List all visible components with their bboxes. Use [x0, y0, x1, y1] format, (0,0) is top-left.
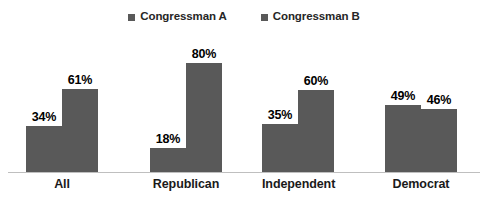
bar-value-label: 34% [32, 111, 56, 124]
category-label: Republican [150, 178, 222, 191]
bar-column[interactable]: 80% [186, 30, 222, 172]
axis-baseline [8, 172, 480, 173]
bar-column[interactable]: 61% [62, 30, 98, 172]
category-label: All [26, 178, 98, 191]
category-label: Democrat [385, 178, 457, 191]
legend-swatch-icon [128, 14, 135, 21]
bar-group-bars: 34%61% [26, 30, 98, 172]
bar[interactable] [150, 148, 186, 172]
bar-column[interactable]: 60% [298, 30, 334, 172]
bar-value-label: 46% [427, 94, 451, 107]
bar-column[interactable]: 34% [26, 30, 62, 172]
bar[interactable] [62, 89, 98, 172]
bar-group: 34%61% [26, 30, 98, 172]
category-label: Independent [262, 178, 334, 191]
chart-legend: Congressman A Congressman B [0, 7, 488, 27]
legend-swatch-icon [261, 14, 268, 21]
bar-group: 18%80% [150, 30, 222, 172]
bar-group-bars: 18%80% [150, 30, 222, 172]
bar[interactable] [262, 124, 298, 172]
bar-chart: Congressman A Congressman B 34%61%18%80%… [0, 0, 488, 210]
bar-group-bars: 35%60% [262, 30, 334, 172]
legend-item-congressman-a[interactable]: Congressman A [128, 11, 226, 23]
bar-value-label: 80% [192, 48, 216, 61]
bar-column[interactable]: 46% [421, 30, 457, 172]
legend-label: Congressman A [140, 11, 226, 23]
bar-value-label: 49% [391, 90, 415, 103]
bar-value-label: 18% [156, 133, 180, 146]
bar-value-label: 60% [304, 75, 328, 88]
bar-group-bars: 49%46% [385, 30, 457, 172]
bar[interactable] [421, 109, 457, 172]
legend-label: Congressman B [273, 11, 360, 23]
bar-column[interactable]: 18% [150, 30, 186, 172]
bar[interactable] [26, 126, 62, 172]
plot-area: 34%61%18%80%35%60%49%46% [0, 30, 488, 172]
bar[interactable] [186, 63, 222, 172]
bar-value-label: 35% [268, 109, 292, 122]
bar-group: 35%60% [262, 30, 334, 172]
legend-item-congressman-b[interactable]: Congressman B [261, 11, 360, 23]
bar[interactable] [385, 105, 421, 172]
bar-value-label: 61% [68, 74, 92, 87]
bar-column[interactable]: 35% [262, 30, 298, 172]
bar[interactable] [298, 90, 334, 172]
bar-column[interactable]: 49% [385, 30, 421, 172]
bar-group: 49%46% [385, 30, 457, 172]
